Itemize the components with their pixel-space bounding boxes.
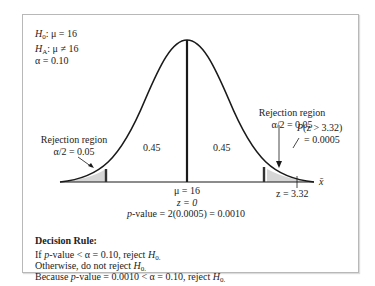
left-alpha-half: α/2 = 0.05 (34, 146, 114, 157)
right-area-label: 0.45 (213, 142, 231, 153)
tail-probability: P(z > 3.32) (297, 122, 342, 133)
decision-rule-1: If p-value < α = 0.10, reject H0. (35, 249, 160, 260)
left-rejection-shade (60, 169, 106, 182)
decision-rule-2: Otherwise, do not reject H0. (35, 260, 146, 271)
decision-rule-3: Because p-value = 0.0010 < α = 0.10, rej… (35, 271, 225, 282)
p-value-calculation: p-value = 2(0.0005) = 0.0010 (127, 208, 245, 219)
right-rejection-title: Rejection region (252, 107, 332, 118)
decision-rule-heading: Decision Rule: (35, 235, 97, 246)
tail-probability-value: = 0.0005 (304, 134, 340, 145)
left-rejection-title: Rejection region (34, 134, 114, 145)
left-area-label: 0.45 (143, 142, 161, 153)
alpha-level: α = 0.10 (35, 55, 68, 66)
x-bar-axis-label: x̄ (319, 176, 323, 187)
z-center-label: z = 0 (147, 197, 227, 208)
z-statistic-label: z = 3.32 (276, 188, 309, 199)
mean-label: μ = 16 (147, 185, 227, 196)
right-rejection-shade (267, 169, 314, 182)
alternative-hypothesis: HA: μ ≠ 16 (35, 43, 78, 54)
null-hypothesis: H0: μ = 16 (35, 28, 77, 39)
